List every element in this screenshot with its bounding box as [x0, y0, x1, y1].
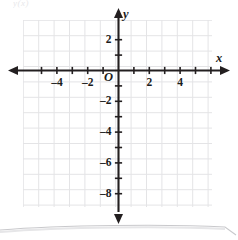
- y-axis-arrow-bottom: [114, 214, 123, 224]
- x-axis-arrow-left: [8, 66, 18, 75]
- x-tick-label: –4: [51, 77, 63, 89]
- x-tick-label: –2: [82, 77, 94, 89]
- grid-lines: [23, 20, 212, 207]
- x-axis-name-label: x: [216, 52, 222, 65]
- page-edge-fill: [0, 225, 238, 240]
- x-tick-label: 2: [146, 77, 152, 89]
- grid-area: [23, 20, 212, 207]
- x-axis-arrow-right: [220, 66, 230, 75]
- y-axis-name-label: y: [123, 8, 129, 21]
- origin-label: O: [104, 71, 113, 84]
- coordinate-plane-figure: y(x) –4–2242–2–4–6–8 O x y: [0, 0, 238, 240]
- x-tick-label: 4: [177, 77, 183, 89]
- page-edge-soft: [0, 227, 225, 232]
- page-edge-shadow: [0, 214, 238, 240]
- y-axis-arrow-top: [114, 8, 123, 18]
- scan-artifact-text: y(x): [13, 0, 55, 8]
- page-edge-line: [0, 225, 236, 235]
